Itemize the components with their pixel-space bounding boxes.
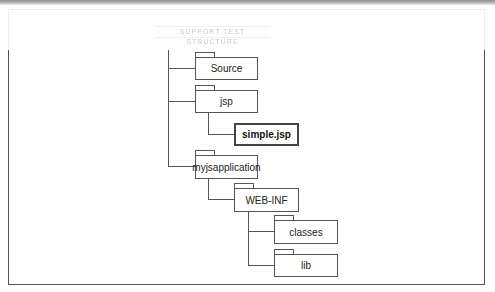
folder-label: jsp <box>220 96 233 107</box>
myjsapplication-child-line <box>208 178 209 199</box>
file-simple-jsp[interactable]: simple.jsp <box>234 123 299 146</box>
branch-simple-jsp <box>208 134 234 135</box>
branch-lib <box>248 265 274 266</box>
branch-myjsapplication <box>168 166 195 167</box>
file-label: simple.jsp <box>242 129 291 140</box>
folder-myjsapplication[interactable]: myjsapplication <box>195 155 258 179</box>
folder-label: lib <box>301 260 311 271</box>
folder-lib[interactable]: lib <box>274 254 338 277</box>
folder-web-inf[interactable]: WEB-INF <box>234 188 299 212</box>
folder-label: Source <box>211 63 243 74</box>
top-gradient-bar <box>0 0 495 5</box>
branch-jsp <box>168 101 195 102</box>
folder-label: myjsapplication <box>192 162 260 173</box>
faded-caption: SUPPORT TEST STRUCTURE <box>155 26 270 38</box>
folder-source[interactable]: Source <box>195 57 258 80</box>
folder-jsp[interactable]: jsp <box>195 90 258 113</box>
branch-source <box>168 68 195 69</box>
folder-label: classes <box>289 227 322 238</box>
web-inf-child-line <box>248 211 249 266</box>
branch-web-inf <box>208 199 234 200</box>
jsp-child-line <box>208 112 209 134</box>
folder-label: WEB-INF <box>245 195 287 206</box>
branch-classes <box>248 231 274 232</box>
folder-classes[interactable]: classes <box>274 220 338 244</box>
